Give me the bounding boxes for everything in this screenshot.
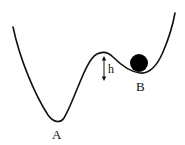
energy-landscape-diagram: h B A [0,0,185,145]
potential-curve [13,13,175,122]
label-h: h [108,62,114,76]
arrowhead-up-icon [102,56,106,61]
arrowhead-down-icon [102,77,106,82]
barrier-height-arrow [102,56,106,81]
ball [130,54,148,72]
label-b: B [136,79,145,94]
label-a: A [52,127,62,142]
